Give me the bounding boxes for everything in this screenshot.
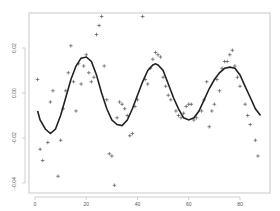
data-point-plus-marker <box>156 53 160 57</box>
data-point-plus-marker <box>151 57 155 61</box>
data-point-plus-marker <box>51 89 55 93</box>
data-point-plus-marker <box>105 98 109 102</box>
data-point-plus-marker <box>256 154 260 158</box>
data-point-plus-marker <box>254 138 258 142</box>
data-point-plus-marker <box>56 174 60 178</box>
data-point-plus-marker <box>243 102 247 106</box>
data-point-plus-marker <box>225 60 229 64</box>
data-point-plus-marker <box>123 107 127 111</box>
data-point-plus-marker <box>205 80 209 84</box>
data-point-plus-marker <box>118 100 122 104</box>
data-point-plus-marker <box>87 71 91 75</box>
data-point-plus-marker <box>100 15 104 19</box>
data-point-plus-marker <box>115 116 119 120</box>
data-point-plus-marker <box>97 24 101 28</box>
data-point-plus-marker <box>128 134 132 138</box>
data-point-plus-marker <box>113 183 117 187</box>
fitted-curve <box>38 57 261 134</box>
x-tick-label: 80 <box>237 201 243 207</box>
data-point-plus-marker <box>69 44 73 48</box>
data-point-plus-marker <box>164 84 168 88</box>
data-point-plus-marker <box>238 84 242 88</box>
plot-box <box>29 13 270 193</box>
data-point-plus-marker <box>82 64 86 68</box>
data-point-plus-marker <box>72 80 76 84</box>
data-point-plus-marker <box>74 109 78 113</box>
data-point-plus-marker <box>131 132 135 136</box>
chart: 020406080 0.020.00-0.02-0.04 <box>0 0 280 211</box>
data-point-plus-marker <box>59 138 63 142</box>
y-tick-label: -0.02 <box>11 132 17 144</box>
data-point-plus-marker <box>166 93 170 97</box>
data-point-plus-marker <box>248 123 252 127</box>
data-point-plus-marker <box>246 114 250 118</box>
data-point-plus-marker <box>184 105 188 109</box>
data-point-plus-marker <box>102 64 106 68</box>
data-point-plus-marker <box>159 55 163 59</box>
data-point-plus-marker <box>236 75 240 79</box>
data-point-plus-marker <box>190 102 194 106</box>
data-point-plus-marker <box>90 80 94 84</box>
data-point-plus-marker <box>154 51 158 55</box>
data-point-plus-marker <box>95 33 99 37</box>
data-point-plus-marker <box>120 102 124 106</box>
data-point-plus-marker <box>231 48 235 52</box>
data-point-plus-marker <box>84 53 88 57</box>
data-point-plus-marker <box>146 82 150 86</box>
data-point-plus-marker <box>218 89 222 93</box>
data-point-plus-marker <box>213 102 217 106</box>
data-point-plus-marker <box>177 114 181 118</box>
y-axis: 0.020.00-0.02-0.04 <box>11 43 25 189</box>
data-point-plus-marker <box>141 15 145 19</box>
data-point-plus-marker <box>67 71 71 75</box>
data-point-plus-marker <box>207 125 211 129</box>
data-point-plus-marker <box>79 82 83 86</box>
y-tick-label: -0.04 <box>11 177 17 189</box>
data-point-plus-marker <box>110 154 114 158</box>
data-point-plus-marker <box>41 159 45 163</box>
data-point-plus-marker <box>174 109 178 113</box>
data-point-plus-marker <box>108 152 112 156</box>
scatter-points <box>36 15 260 187</box>
x-axis: 020406080 <box>34 197 243 207</box>
data-point-plus-marker <box>92 75 96 79</box>
x-tick-label: 60 <box>186 201 192 207</box>
data-point-plus-marker <box>36 78 40 82</box>
data-point-plus-marker <box>49 100 53 104</box>
data-point-plus-marker <box>46 141 50 145</box>
data-point-plus-marker <box>210 109 214 113</box>
data-point-plus-marker <box>38 147 42 151</box>
y-tick-label: 0.02 <box>11 43 17 53</box>
data-point-plus-marker <box>228 53 232 57</box>
x-tick-label: 0 <box>34 201 37 207</box>
x-tick-label: 20 <box>83 201 89 207</box>
y-tick-label: 0.00 <box>11 88 17 98</box>
data-point-plus-marker <box>169 98 173 102</box>
x-tick-label: 40 <box>135 201 141 207</box>
